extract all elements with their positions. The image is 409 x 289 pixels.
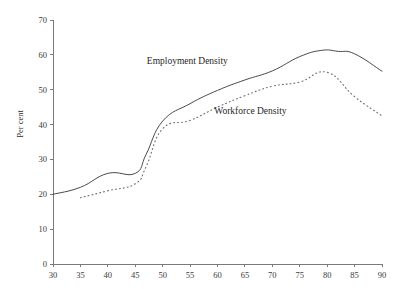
series-annotation-label: Employment Density bbox=[147, 56, 228, 66]
x-tick-label: 50 bbox=[158, 270, 167, 280]
x-tick-label: 35 bbox=[76, 270, 85, 280]
x-tick-label: 70 bbox=[268, 270, 277, 280]
y-tick-label: 50 bbox=[39, 85, 48, 95]
x-tick-label: 40 bbox=[104, 270, 113, 280]
y-tick-label: 10 bbox=[39, 224, 48, 234]
y-tick-label: 60 bbox=[39, 50, 48, 60]
x-tick-label: 85 bbox=[350, 270, 359, 280]
x-tick-label: 65 bbox=[241, 270, 250, 280]
x-axis: 30354045505560657075808590 bbox=[49, 264, 387, 280]
y-tick-label: 30 bbox=[39, 154, 48, 164]
x-tick-label: 55 bbox=[186, 270, 195, 280]
y-tick-label: 0 bbox=[43, 259, 47, 269]
x-tick-label: 30 bbox=[49, 270, 58, 280]
x-tick-label: 75 bbox=[296, 270, 305, 280]
series-annotation-label: Workforce Density bbox=[214, 106, 287, 116]
y-axis-title: Per cent bbox=[15, 110, 25, 138]
x-tick-label: 60 bbox=[213, 270, 222, 280]
series-line bbox=[53, 50, 382, 194]
x-tick-label: 80 bbox=[323, 270, 332, 280]
data-series-group bbox=[53, 50, 382, 198]
chart-container: 010203040506070 303540455055606570758085… bbox=[0, 0, 409, 289]
x-tick-label: 45 bbox=[131, 270, 140, 280]
x-tick-label: 90 bbox=[378, 270, 387, 280]
series-line bbox=[80, 72, 382, 198]
y-tick-label: 40 bbox=[39, 120, 48, 130]
y-tick-label: 70 bbox=[39, 15, 48, 25]
y-axis: 010203040506070 bbox=[39, 15, 54, 269]
axis-titles: Per cent bbox=[15, 110, 25, 138]
line-chart: 010203040506070 303540455055606570758085… bbox=[0, 0, 409, 289]
y-tick-label: 20 bbox=[39, 189, 48, 199]
series-annotations: Employment DensityWorkforce Density bbox=[147, 56, 287, 117]
